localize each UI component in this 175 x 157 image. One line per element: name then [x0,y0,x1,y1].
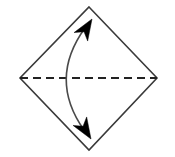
diagram-canvas [0,0,175,157]
figure-container [0,0,175,157]
